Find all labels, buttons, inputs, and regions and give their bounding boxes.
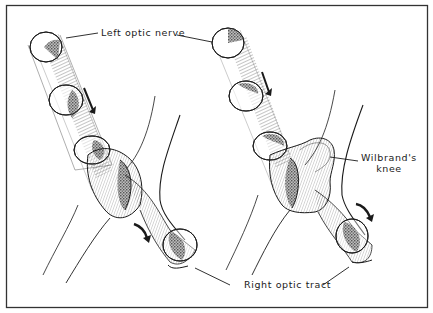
label-wilbrands-knee-line2: knee xyxy=(359,163,419,174)
leader-left-optic-nerve-1 xyxy=(66,33,98,38)
right-other-tract-outline-inner xyxy=(252,210,290,275)
left-arrow-curved xyxy=(134,224,147,238)
right-other-tract-outline-outer xyxy=(226,195,258,270)
leader-right-optic-tract-1 xyxy=(195,268,230,285)
label-wilbrands-knee-line1: Wilbrand's xyxy=(359,152,419,163)
label-right-optic-tract: Right optic tract xyxy=(244,279,331,290)
diagram-figure: Left optic nerve Wilbrand's knee Right o… xyxy=(0,0,433,313)
left-other-tract-outline-inner xyxy=(66,218,110,283)
left-other-tract-outline-outer xyxy=(43,205,78,275)
right-panel xyxy=(177,28,374,285)
label-wilbrands-knee: Wilbrand's knee xyxy=(359,152,419,174)
label-left-optic-nerve: Left optic nerve xyxy=(101,27,185,38)
right-arrow-curved xyxy=(356,204,370,217)
left-panel xyxy=(28,32,230,285)
